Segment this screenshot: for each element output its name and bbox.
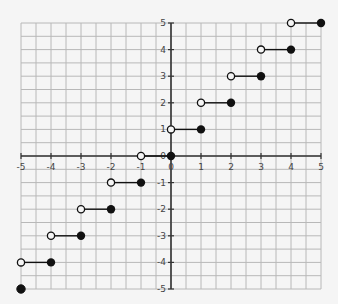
open-endpoint-icon (17, 259, 24, 266)
closed-endpoint-icon (227, 99, 235, 107)
y-tick-label: 1 (160, 124, 166, 134)
closed-endpoint-icon (197, 125, 205, 133)
closed-endpoint-icon (47, 258, 55, 266)
x-tick-label: -3 (77, 162, 86, 172)
closed-endpoint-icon (287, 45, 295, 53)
y-tick-label: 4 (160, 45, 166, 55)
open-endpoint-icon (77, 206, 84, 213)
x-tick-label: 4 (288, 162, 294, 172)
x-tick-label: -5 (17, 162, 26, 172)
x-tick-label: 3 (258, 162, 264, 172)
x-tick-label: 0 (168, 162, 174, 172)
chart-canvas: -5-4-3-2-1012345543210-1-2-3-4-5 (0, 0, 338, 304)
y-tick-label: 2 (160, 98, 166, 108)
y-tick-label: -3 (157, 231, 166, 241)
x-tick-label: -1 (137, 162, 146, 172)
x-tick-label: 1 (198, 162, 204, 172)
open-endpoint-icon (257, 46, 264, 53)
open-endpoint-icon (197, 99, 204, 106)
closed-endpoint-icon (77, 232, 85, 240)
closed-endpoint-icon (317, 19, 325, 27)
x-tick-label: 5 (318, 162, 324, 172)
x-tick-label: -4 (47, 162, 56, 172)
closed-endpoint-icon (167, 152, 175, 160)
closed-endpoint-icon (107, 205, 115, 213)
x-tick-label: 2 (228, 162, 234, 172)
y-tick-label: -1 (157, 178, 166, 188)
isolated-point-icon (17, 285, 25, 293)
open-endpoint-icon (167, 126, 174, 133)
y-tick-label: -2 (157, 204, 166, 214)
closed-endpoint-icon (137, 178, 145, 186)
open-endpoint-icon (287, 19, 294, 26)
closed-endpoint-icon (257, 72, 265, 80)
y-tick-label: 3 (160, 71, 166, 81)
open-endpoint-icon (47, 232, 54, 239)
open-endpoint-icon (107, 179, 114, 186)
y-tick-label: -4 (157, 257, 166, 267)
open-endpoint-icon (227, 73, 234, 80)
open-endpoint-icon (137, 152, 144, 159)
y-tick-label: 5 (160, 18, 166, 28)
step-function-chart: -5-4-3-2-1012345543210-1-2-3-4-5 (0, 0, 338, 304)
y-tick-label: -5 (157, 284, 166, 294)
x-tick-label: -2 (107, 162, 116, 172)
